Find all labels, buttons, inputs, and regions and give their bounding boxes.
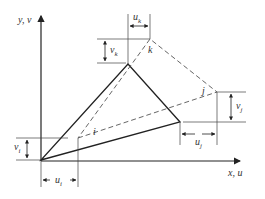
u-j-label: uj — [195, 137, 202, 150]
node-label-i: i — [93, 127, 96, 137]
y-axis-label: y, v — [18, 15, 31, 25]
v-j-label: vj — [236, 101, 242, 114]
v-i-label: vi — [14, 142, 20, 155]
u-k-label: uk — [133, 12, 141, 25]
v-k-label: vk — [110, 45, 118, 58]
original-triangle — [41, 64, 180, 160]
diagram-graphics — [0, 0, 265, 199]
node-label-j: j — [202, 86, 205, 96]
u-i-label: ui — [55, 175, 62, 188]
x-axis-label: x, u — [228, 168, 242, 178]
node-label-k: k — [148, 45, 152, 55]
element-displacement-diagram: y, v x, u i j k vi ui vj uj vk uk — [0, 0, 265, 199]
